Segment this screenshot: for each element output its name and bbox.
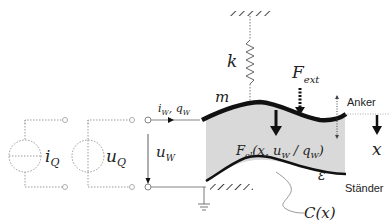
fixed-support-bottom xyxy=(210,184,253,190)
capacitance-leader xyxy=(276,172,304,213)
port-voltage-label: uW xyxy=(156,143,176,163)
capacitance-label: C(x) xyxy=(304,204,336,222)
transducer-diagram: iQ uQ iW, qW uW xyxy=(0,0,390,222)
current-source: iQ xyxy=(9,118,68,190)
voltage-arrow-icon xyxy=(146,178,151,184)
spring-icon xyxy=(246,40,254,84)
current-source-label: iQ xyxy=(45,146,59,169)
current-arrow-icon xyxy=(168,117,174,123)
staender-label: Ständer xyxy=(345,182,384,194)
mass-label: m xyxy=(215,88,229,106)
displacement-arrow-icon xyxy=(372,126,382,135)
permittivity-label: ε xyxy=(318,167,326,183)
displacement-label: x xyxy=(372,139,382,159)
voltage-source-label: uQ xyxy=(106,146,126,169)
port-current-label: iW, qW xyxy=(158,102,191,117)
port-terminal-bottom xyxy=(145,184,151,190)
external-force-label: Fext xyxy=(291,62,320,85)
spring-label: k xyxy=(227,51,237,71)
anker-label: Anker xyxy=(347,96,376,108)
voltage-source: uQ xyxy=(72,118,135,190)
ground-icon xyxy=(198,187,210,210)
port: iW, qW uW xyxy=(145,102,206,190)
port-terminal-top xyxy=(145,117,151,123)
fixed-support-top xyxy=(229,11,272,16)
